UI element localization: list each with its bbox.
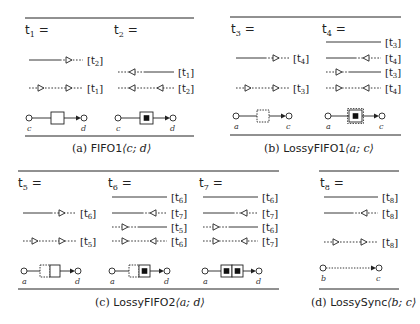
caption: (b) LossyFIFO1⟨a; c⟩ (264, 142, 374, 155)
transition-row: [t1] (29, 83, 103, 96)
arrowhead-icon (70, 268, 75, 273)
transition-row: [t3] (326, 67, 401, 80)
term-label: t7 = (199, 176, 223, 192)
source-port-label: c (27, 124, 32, 133)
target-ref: [t3] (385, 37, 401, 50)
term-t4: t4 =[t3][t4][t3][t4]ac (322, 22, 401, 131)
target-ref: [t6] (171, 192, 187, 205)
target-ref: [t1] (178, 67, 194, 80)
target-ref: [t3] (385, 67, 401, 80)
transition-row: [t3] (236, 83, 309, 96)
target-ref: [t2] (178, 83, 194, 96)
sink-node-icon (164, 268, 170, 274)
transition-row: [t6] (203, 192, 278, 205)
arrowhead-right-icon (213, 224, 219, 230)
token-icon (353, 113, 359, 119)
buffer-cell-icon (50, 265, 60, 277)
transition-row: [t6] (112, 192, 187, 205)
arrowhead-icon (374, 113, 379, 118)
transition-row: [t4] (326, 83, 401, 96)
connector-diagram: ac (325, 109, 385, 132)
target-ref: [t6] (171, 236, 187, 249)
caption: (c) LossyFIFO2⟨a; d⟩ (95, 296, 205, 309)
term-t8: t8 =[t8][t8][t8]bc (320, 176, 398, 283)
caption-args: ⟨c; d⟩ (122, 142, 151, 155)
sink-node-icon (170, 115, 176, 121)
sink-port-label: d (164, 277, 169, 286)
target-ref: [t5] (171, 222, 187, 235)
term-t5: t5 =[t6][t5]ad (18, 176, 96, 286)
transition-row: [t2] (118, 83, 194, 96)
source-node-icon (320, 265, 326, 271)
panel-c: (c) LossyFIFO2⟨a; d⟩t5 =[t6][t5]adt6 =[t… (18, 171, 279, 309)
sink-node-icon (256, 268, 262, 274)
transition-row: [t5] (112, 222, 187, 235)
source-node-icon (202, 268, 208, 274)
arrowhead-icon (159, 268, 164, 273)
sink-node-icon (286, 113, 292, 119)
arrowhead-icon (251, 268, 256, 273)
transition-row: [t4] (326, 53, 401, 66)
connector-diagram: ad (109, 265, 170, 286)
transition-row: [t7] (112, 208, 187, 221)
arrowhead-icon (165, 115, 170, 120)
token-icon (142, 268, 148, 274)
buffer-cell-icon (40, 265, 50, 277)
source-port-label: a (110, 277, 115, 286)
panel-d: (d) LossySync⟨b; c⟩t8 =[t8][t8][t8]bc (311, 171, 416, 309)
term-label: t8 = (320, 176, 344, 192)
connector-diagram: cd (115, 112, 176, 133)
caption: (a) FIFO1⟨c; d⟩ (72, 142, 151, 155)
token-icon (144, 115, 150, 121)
caption-args: ⟨a; c⟩ (345, 142, 374, 155)
transition-row: [t7] (203, 208, 278, 221)
transition-row: [t8] (324, 208, 398, 221)
arrowhead-left-icon (157, 85, 163, 91)
term-t1: t1 =[t2][t1]cd (25, 23, 103, 133)
source-node-icon (233, 113, 239, 119)
figure-canvas: (a) FIFO1⟨c; d⟩t1 =[t2][t1]cdt2 =[t1][t2… (0, 0, 420, 324)
buffer-cell-icon (129, 265, 139, 277)
token-icon (235, 268, 241, 274)
sink-port-label: d (75, 277, 80, 286)
source-port-label: a (326, 122, 331, 131)
arrowhead-right-icon (336, 85, 342, 91)
target-ref: [t8] (382, 237, 398, 250)
source-node-icon (325, 113, 331, 119)
arrowhead-left-icon (241, 238, 247, 244)
arrowhead-left-icon (241, 210, 247, 216)
caption-name: LossyFIFO2 (113, 296, 175, 309)
transition-row: [t5] (23, 236, 96, 249)
arrowhead-right-icon (361, 239, 367, 245)
caption-prefix: (c) (95, 296, 113, 309)
target-ref: [t6] (262, 192, 278, 205)
caption-name: LossyFIFO1 (283, 142, 345, 155)
arrowhead-right-icon (59, 210, 65, 216)
term-t7: t7 =[t6][t7][t6][t7]ad (199, 176, 278, 286)
connector-diagram: ad (21, 265, 81, 286)
target-ref: [t4] (385, 53, 401, 66)
sink-port-label: d (256, 277, 261, 286)
sink-port-label: c (379, 122, 384, 131)
source-node-icon (115, 115, 121, 121)
arrowhead-left-icon (363, 85, 369, 91)
target-ref: [t7] (262, 236, 278, 249)
sink-node-icon (376, 265, 382, 271)
target-ref: [t7] (171, 208, 187, 221)
term-label: t3 = (231, 22, 255, 38)
source-port-label: a (22, 277, 27, 286)
term-label: t6 = (108, 176, 132, 192)
transition-row: [t7] (203, 236, 278, 249)
transition-row: [t1] (118, 67, 194, 80)
arrowhead-left-icon (363, 55, 369, 61)
transition-row: [t6] (203, 222, 278, 235)
sink-port-label: d (170, 124, 175, 133)
arrowhead-left-icon (150, 238, 156, 244)
arrowhead-right-icon (273, 55, 279, 61)
target-ref: [t4] (293, 53, 309, 66)
connector-diagram: cd (26, 112, 87, 133)
transition-row: [t8] (324, 237, 398, 250)
arrowhead-right-icon (245, 85, 251, 91)
buffer-cell-icon (257, 110, 269, 122)
caption-args: ⟨b; c⟩ (387, 296, 416, 309)
